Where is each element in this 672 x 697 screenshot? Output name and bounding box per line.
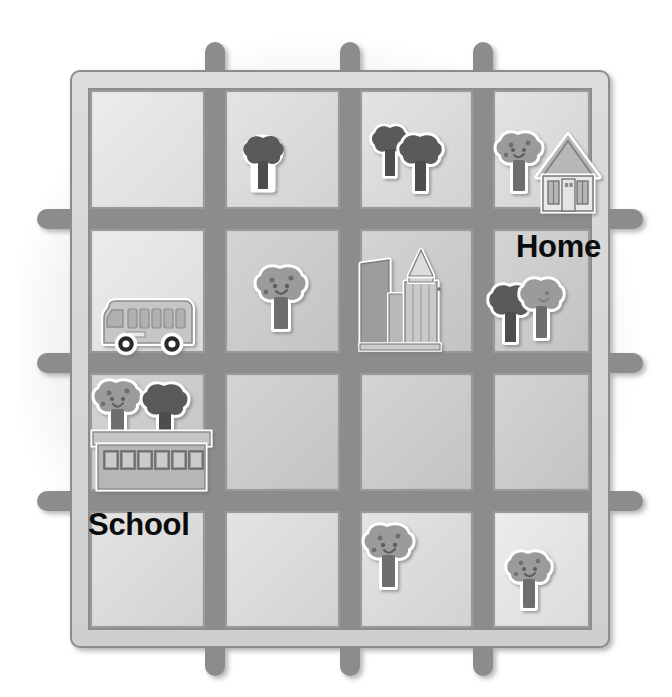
block-r3c3: [361, 374, 472, 490]
bus-icon: [104, 301, 192, 354]
block-r4c2: [226, 512, 339, 627]
map-canvas: Home School: [0, 0, 672, 697]
street-grid-map: [0, 0, 672, 697]
block-r1c1: [91, 91, 204, 208]
block-r3c4: [494, 374, 589, 490]
school-building-icon: [93, 432, 210, 489]
map-label-home: Home: [516, 231, 601, 262]
block-r3c2: [226, 374, 339, 490]
map-label-school: School: [88, 509, 190, 540]
